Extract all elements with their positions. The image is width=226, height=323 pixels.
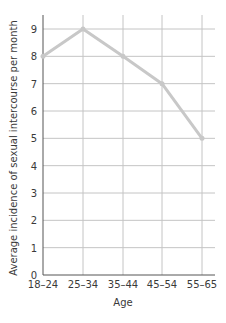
y-tick-label: 9 bbox=[31, 24, 37, 35]
data-point bbox=[41, 54, 46, 59]
y-tick-label: 7 bbox=[31, 79, 37, 90]
y-tick-label: 4 bbox=[31, 161, 37, 172]
x-axis-label: Age bbox=[113, 297, 132, 308]
y-tick-label: 2 bbox=[31, 215, 37, 226]
data-point bbox=[121, 54, 126, 59]
y-tick-label: 5 bbox=[31, 133, 37, 144]
data-point bbox=[160, 81, 165, 86]
x-tick-label: 55–65 bbox=[187, 279, 217, 290]
data-point bbox=[200, 136, 205, 141]
x-tick-label: 18–24 bbox=[28, 279, 58, 290]
y-axis-label: Average incidence of sexual intercourse … bbox=[8, 20, 19, 276]
axes bbox=[43, 15, 215, 275]
grid-lines bbox=[43, 15, 215, 275]
line-chart: 0123456789 18–2425–3435–4445–5455–65 Age… bbox=[0, 0, 226, 323]
data-point bbox=[81, 27, 86, 32]
y-tick-label: 6 bbox=[31, 106, 37, 117]
x-tick-labels: 18–2425–3435–4445–5455–65 bbox=[28, 279, 217, 290]
y-tick-label: 3 bbox=[31, 188, 37, 199]
x-tick-label: 35–44 bbox=[108, 279, 138, 290]
y-tick-label: 1 bbox=[31, 243, 37, 254]
x-tick-label: 45–54 bbox=[147, 279, 177, 290]
x-tick-label: 25–34 bbox=[68, 279, 98, 290]
y-tick-labels: 0123456789 bbox=[31, 24, 37, 281]
y-tick-label: 8 bbox=[31, 51, 37, 62]
